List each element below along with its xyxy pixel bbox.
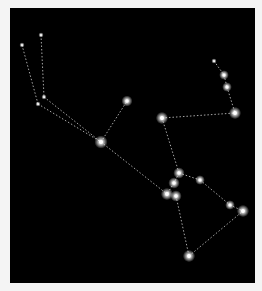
constellation-line: [44, 97, 101, 142]
star: [241, 209, 245, 213]
star: [187, 254, 191, 258]
star: [213, 60, 215, 62]
constellation-stars: [19, 32, 249, 262]
star: [43, 96, 45, 98]
constellation-line: [22, 45, 38, 104]
star: [233, 111, 237, 115]
star: [99, 140, 103, 144]
star: [37, 103, 39, 105]
star: [222, 73, 225, 76]
constellation-line: [162, 118, 179, 173]
star: [165, 192, 169, 196]
star: [125, 99, 129, 103]
star: [198, 178, 201, 181]
star: [174, 194, 178, 198]
star: [177, 171, 181, 175]
constellation-line: [41, 35, 44, 97]
constellation-line: [162, 113, 235, 118]
star: [21, 44, 23, 46]
star: [172, 181, 176, 185]
constellation-lines: [22, 35, 243, 256]
star: [160, 116, 164, 120]
star: [40, 34, 42, 36]
star: [228, 203, 231, 206]
constellation-line: [101, 142, 167, 194]
constellation-line: [200, 180, 230, 205]
constellation-line: [189, 211, 243, 256]
constellation-line: [176, 196, 189, 256]
star: [225, 85, 228, 88]
constellation-chart: [0, 0, 262, 291]
constellation-line: [38, 104, 101, 142]
constellation-line: [101, 101, 127, 142]
